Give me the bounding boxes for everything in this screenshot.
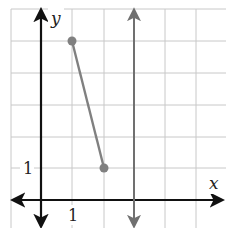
endpoint-1-5 [68, 37, 77, 46]
x-axis-label: x [209, 173, 219, 193]
x-tick-label-1: 1 [68, 206, 78, 225]
endpoint-2-1 [100, 164, 109, 173]
coordinate-plane: y x 1 1 [0, 0, 226, 228]
grid [11, 9, 226, 228]
y-tick-label-1: 1 [23, 159, 33, 178]
y-axis-label: y [50, 8, 61, 28]
